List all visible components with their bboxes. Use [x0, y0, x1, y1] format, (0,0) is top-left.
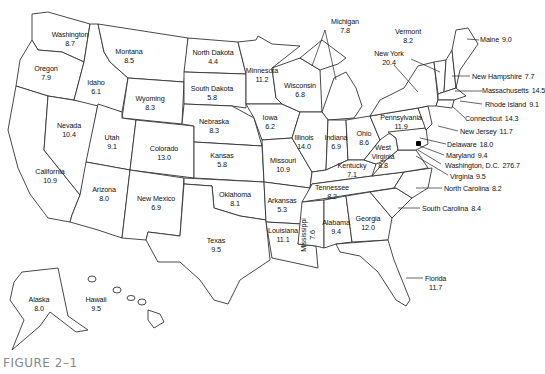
- label-ohio: Ohio8.6: [357, 129, 372, 147]
- label-california: California10.9: [35, 167, 64, 185]
- label-maryland: Maryland9.4: [446, 151, 487, 160]
- state-hawaii-4: [138, 299, 146, 305]
- label-west-virginia: WestVirginia8.8: [371, 143, 394, 170]
- label-connecticut: Connecticut14.3: [465, 114, 518, 123]
- label-washington-dc: Washington, D.C.276.7: [445, 161, 520, 170]
- label-utah: Utah9.1: [105, 133, 120, 151]
- label-mississippi: Mississippi7.6: [299, 218, 317, 252]
- label-new-york: New York20.4: [374, 49, 404, 67]
- figure-caption: FIGURE 2–1: [3, 356, 78, 370]
- label-wyoming: Wyoming8.3: [135, 94, 164, 112]
- state-hawaii-5: [148, 310, 164, 328]
- label-new-jersey: New Jersey11.7: [460, 127, 513, 136]
- label-delaware: Delaware18.0: [447, 140, 493, 149]
- dc-marker-icon: [416, 141, 421, 146]
- label-north-carolina: North Carolina8.2: [444, 184, 502, 193]
- label-alaska: Alaska8.0: [29, 295, 50, 313]
- label-arizona: Arizona8.0: [92, 185, 116, 203]
- label-michigan: Michigan7.8: [331, 17, 359, 35]
- label-north-dakota: North Dakota4.4: [192, 48, 233, 66]
- label-iowa: Iowa6.2: [263, 113, 278, 131]
- label-massachusetts: Massachusetts14.5: [482, 86, 545, 95]
- label-tennessee: Tennessee8.2: [315, 183, 349, 201]
- label-washington: Washington8.7: [52, 30, 89, 48]
- state-michigan-lower: [322, 72, 362, 120]
- label-louisiana: Louisiana11.1: [268, 226, 298, 244]
- label-south-carolina: South Carolina8.4: [422, 204, 481, 213]
- label-colorado: Colorado13.0: [150, 144, 178, 162]
- label-alabama: Alabama9.4: [322, 218, 350, 236]
- label-texas: Texas9.5: [207, 236, 225, 254]
- label-virginia: Virginia9.5: [450, 172, 486, 181]
- state-hawaii-1: [88, 276, 96, 282]
- label-minnesota: Minnesota11.2: [246, 66, 278, 84]
- label-kansas: Kansas5.8: [210, 151, 233, 169]
- label-arkansas: Arkansas5.3: [267, 196, 296, 214]
- label-indiana: Indiana6.9: [325, 133, 348, 151]
- label-new-mexico: New Mexico6.9: [137, 194, 175, 212]
- label-nevada: Nevada10.4: [57, 121, 81, 139]
- label-pennsylvania: Pennsylvania11.9: [380, 113, 422, 131]
- label-florida: Florida11.7: [425, 274, 446, 292]
- label-hawaii: Hawaii9.5: [86, 295, 107, 313]
- label-missouri: Missouri10.9: [270, 156, 296, 174]
- label-montana: Montana8.5: [115, 47, 142, 65]
- state-florida: [336, 240, 410, 306]
- label-maine: Maine9.0: [480, 35, 512, 44]
- label-kentucky: Kentucky7.1: [338, 161, 367, 179]
- label-south-dakota: South Dakota5.8: [191, 84, 233, 102]
- label-new-hampshire: New Hampshire7.7: [472, 72, 535, 81]
- label-georgia: Georgia12.0: [356, 214, 381, 232]
- label-idaho: Idaho6.1: [87, 78, 105, 96]
- label-wisconsin: Wisconsin6.8: [284, 81, 316, 99]
- label-nebraska: Nebraska8.3: [199, 117, 229, 135]
- label-oklahoma: Oklahoma8.1: [219, 190, 251, 208]
- state-connecticut: [436, 100, 454, 108]
- state-hawaii-2: [113, 287, 121, 293]
- label-oregon: Oregon7.9: [34, 64, 57, 82]
- label-rhode-island: Rhode Island9.1: [485, 100, 539, 109]
- label-vermont: Vermont8.2: [395, 27, 421, 45]
- state-hawaii-3: [127, 296, 135, 301]
- label-illinois: Illinois14.0: [294, 133, 313, 151]
